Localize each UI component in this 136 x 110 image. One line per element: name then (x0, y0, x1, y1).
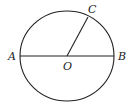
label-o: O (63, 60, 72, 73)
circle-diagram: A B C O (0, 0, 136, 110)
label-a: A (7, 50, 16, 63)
radius-oc (67, 17, 88, 56)
label-c: C (88, 3, 97, 16)
label-b: B (117, 50, 126, 63)
